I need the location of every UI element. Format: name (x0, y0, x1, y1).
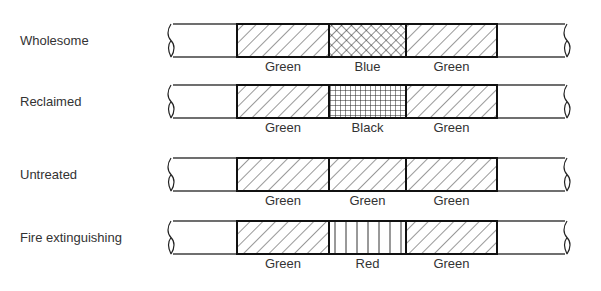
color-band-green (237, 221, 329, 254)
color-band-green (406, 158, 497, 191)
band-color-label: Green (412, 59, 492, 74)
pipe-type-label: Fire extinguishing (20, 230, 122, 245)
color-band-green (237, 158, 329, 191)
color-band-green (329, 158, 406, 191)
pipe-type-label: Reclaimed (20, 94, 81, 109)
band-color-label: Green (412, 256, 492, 271)
pipe-diagram (0, 0, 601, 291)
pipe-type-label: Wholesome (20, 33, 89, 48)
color-band-green (406, 85, 497, 118)
band-color-label: Blue (328, 59, 408, 74)
pipe-type-label: Untreated (20, 167, 77, 182)
band-color-label: Red (328, 256, 408, 271)
band-color-label: Green (412, 193, 492, 208)
color-band-green (406, 221, 497, 254)
color-band-red (329, 221, 406, 254)
color-band-black (329, 85, 406, 118)
band-color-label: Green (243, 193, 323, 208)
band-color-label: Green (243, 256, 323, 271)
color-band-green (237, 85, 329, 118)
color-band-green (406, 24, 497, 57)
band-color-label: Green (328, 193, 408, 208)
band-color-label: Green (243, 120, 323, 135)
band-color-label: Green (412, 120, 492, 135)
color-band-blue (329, 24, 406, 57)
band-color-label: Green (243, 59, 323, 74)
color-band-green (237, 24, 329, 57)
band-color-label: Black (328, 120, 408, 135)
